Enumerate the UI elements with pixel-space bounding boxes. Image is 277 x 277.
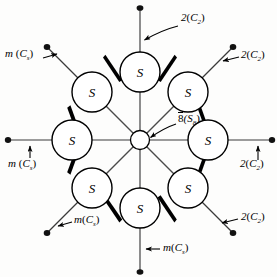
arrow-label-upper-right [223, 57, 239, 61]
symbol-c: C [175, 241, 182, 253]
overlined-eight: 8 [178, 113, 184, 124]
symmetry-diagram-figure: S S S S S S S S 2(C2) 2(C2) 2(C2) 2(C2) … [0, 0, 277, 277]
dot-lower-right [230, 230, 237, 236]
symbol-c: C [250, 48, 257, 60]
dot-top [137, 5, 144, 11]
symbol-c: C [19, 47, 26, 59]
center-paren-close: ) [196, 112, 200, 124]
atom-label-right: S [205, 133, 212, 148]
symmetry-label-upper-left: m (Cs) [5, 48, 33, 62]
s8-symmetry-svg: S S S S S S S S [0, 0, 277, 277]
symbol-c: C [250, 210, 257, 222]
symmetry-label-right: 2(C2) [240, 158, 264, 172]
symbol-c: C [249, 157, 256, 169]
paren-close: ) [201, 11, 205, 23]
paren-close: ) [185, 241, 189, 253]
dot-upper-right [230, 44, 237, 50]
paren-close: ) [261, 210, 265, 222]
arrow-label-upper-left [43, 54, 57, 58]
dot-lower-left [44, 230, 51, 236]
mirror-symbol: m [5, 47, 13, 59]
symbol-c: C [190, 11, 197, 23]
mirror-symbol: m [163, 241, 171, 253]
symmetry-label-upper-right: 2(C2) [241, 49, 265, 63]
paren-close: ) [261, 48, 265, 60]
dot-right [269, 137, 275, 143]
atom-label-upper-right: S [185, 85, 192, 100]
center-hub-circle[interactable] [131, 131, 150, 150]
paren-close: ) [29, 47, 33, 59]
paren-close: ) [96, 213, 100, 225]
mirror-symbol: m [74, 213, 82, 225]
symbol-c: C [86, 213, 93, 225]
symmetry-label-lower-left: m(Cs) [74, 214, 99, 228]
mirror-symbol: m [8, 157, 16, 169]
dot-left [5, 137, 11, 143]
atom-label-top: S [137, 65, 144, 80]
symmetry-label-lower-right: 2(C2) [241, 211, 265, 225]
dot-upper-left [44, 44, 51, 50]
atom-label-lower-left: S [89, 181, 96, 196]
paren-close: ) [32, 157, 36, 169]
dot-bottom [137, 269, 144, 275]
atom-label-upper-left: S [89, 85, 96, 100]
symmetry-label-left: m (Cs) [8, 158, 36, 172]
symmetry-label-top: 2(C2) [181, 12, 205, 26]
atom-label-left: S [69, 133, 76, 148]
atom-label-bottom: S [137, 201, 144, 216]
paren-close: ) [260, 157, 264, 169]
atom-label-lower-right: S [185, 181, 192, 196]
arrow-label-top [145, 26, 179, 40]
arrow-label-lower-left [58, 222, 72, 226]
center-symmetry-label: 8(S8) [178, 113, 200, 127]
center-paren-open: (S [184, 112, 193, 124]
symmetry-label-bottom: m(Cs) [163, 242, 188, 256]
arrow-label-lower-right [222, 219, 238, 223]
symbol-c: C [22, 157, 29, 169]
